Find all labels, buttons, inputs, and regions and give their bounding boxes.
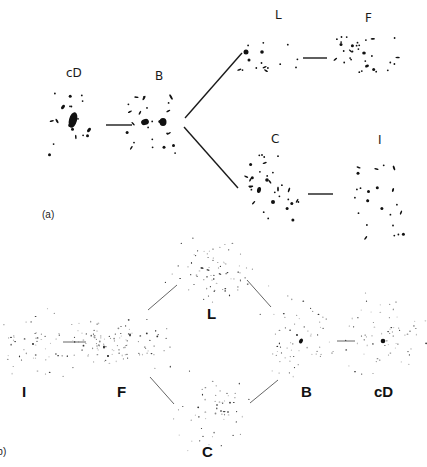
connector-line [247, 280, 271, 307]
panel-b-label-F: F [117, 384, 126, 399]
panel-b-label-cD: cD [374, 384, 393, 399]
panel-a-cluster-F [333, 36, 400, 73]
panel-a-cluster-cD [48, 93, 92, 157]
connector-line [185, 53, 242, 118]
panel-b-label-B: B [301, 384, 312, 399]
panel-b-cluster-cD [331, 292, 427, 374]
panel-a-cluster-I [354, 164, 405, 240]
panel-b-label-I: I [22, 384, 26, 399]
connector-line [150, 377, 174, 404]
panel-a-cluster-B [126, 94, 176, 154]
panel-b-cluster-F [57, 319, 171, 369]
panel-b-cluster-B [260, 295, 334, 377]
panel-a-tag: (a) [42, 210, 54, 220]
panel-a-label-B: B [155, 70, 163, 82]
connector-line [250, 380, 278, 403]
panel-a-label-F: F [365, 12, 372, 24]
panel-a-edges [106, 53, 333, 194]
panel-a-label-C: C [271, 133, 279, 145]
panel-a-label-L: L [275, 9, 282, 21]
galaxy-group-evolution-figure: cD B L F C I (a) I F L C B cD (b) [0, 0, 427, 467]
panel-b-label-L: L [207, 306, 216, 321]
panel-b-cluster-C [173, 371, 249, 452]
panel-a-cluster-L [237, 42, 298, 73]
panel-b-label-C: C [202, 444, 213, 459]
connector-line [184, 127, 238, 188]
panel-a-label-cD: cD [66, 67, 82, 79]
panel-a-cluster-C [244, 154, 299, 222]
panel-b-tag: (b) [0, 447, 6, 457]
panel-b-cluster-L [165, 238, 269, 304]
figure-canvas [0, 0, 427, 467]
panel-b-clusters [3, 238, 427, 452]
panel-b-cluster-I [3, 308, 63, 377]
panel-a-clusters [48, 36, 405, 240]
connector-line [148, 285, 177, 310]
panel-a-label-I: I [378, 134, 382, 146]
